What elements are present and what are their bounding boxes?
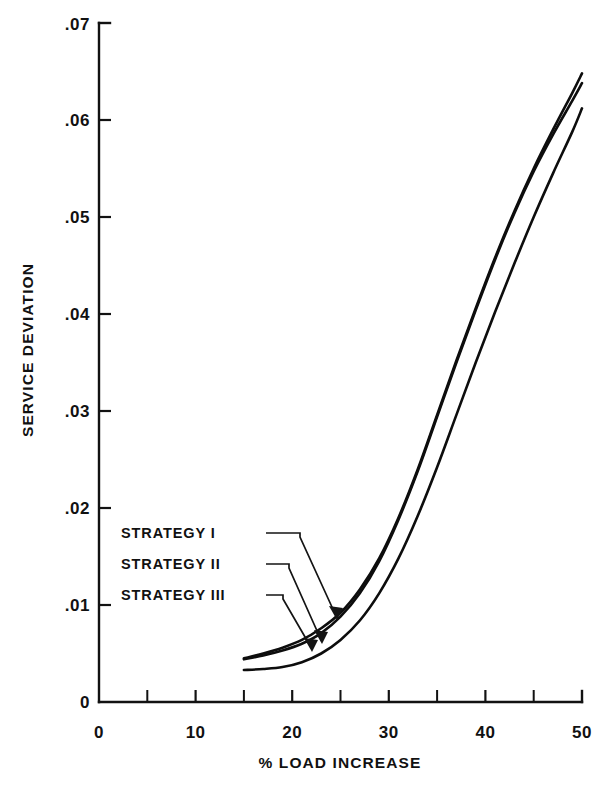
y-tick-label-0.01: .01 bbox=[65, 596, 90, 615]
curve-strategy-i bbox=[244, 73, 582, 658]
y-axis-title: SERVICE DEVIATION bbox=[19, 263, 36, 437]
leader-line-strategy-i bbox=[266, 533, 337, 618]
x-axis-title: % LOAD INCREASE bbox=[259, 754, 422, 771]
y-axis-tick-labels: 0 .01 .02 .03 .04 .05 .06 .07 bbox=[65, 15, 90, 712]
legend-item-strategy-ii: STRATEGY II bbox=[121, 556, 221, 572]
x-tick-label-10: 10 bbox=[186, 723, 206, 742]
y-tick-label-0.04: .04 bbox=[65, 305, 90, 324]
leader-lines-group bbox=[266, 533, 343, 652]
x-axis-tick-labels: 0 10 20 30 40 50 bbox=[94, 723, 592, 742]
x-tick-label-50: 50 bbox=[572, 723, 592, 742]
x-axis-ticks bbox=[147, 690, 533, 702]
legend-group: STRATEGY I STRATEGY II STRATEGY III bbox=[121, 525, 226, 603]
y-tick-label-0: 0 bbox=[80, 693, 90, 712]
curve-strategy-iii bbox=[244, 108, 582, 670]
curve-strategy-ii bbox=[244, 83, 582, 659]
y-axis-ticks bbox=[99, 120, 111, 605]
legend-item-strategy-iii: STRATEGY III bbox=[121, 587, 226, 603]
leader-line-strategy-ii bbox=[266, 564, 322, 642]
y-tick-label-0.07: .07 bbox=[65, 15, 90, 34]
y-tick-label-0.02: .02 bbox=[65, 499, 90, 518]
y-tick-label-0.03: .03 bbox=[65, 402, 90, 421]
x-tick-label-40: 40 bbox=[475, 723, 495, 742]
arrowhead-strategy-iii bbox=[304, 638, 318, 652]
x-tick-label-0: 0 bbox=[94, 723, 104, 742]
y-tick-label-0.06: .06 bbox=[65, 111, 90, 130]
figure-container: 0 .01 .02 .03 .04 .05 .06 .07 0 10 20 3 bbox=[0, 0, 609, 786]
y-tick-label-0.05: .05 bbox=[65, 208, 90, 227]
service-deviation-line-chart: 0 .01 .02 .03 .04 .05 .06 .07 0 10 20 3 bbox=[0, 0, 609, 786]
legend-item-strategy-i: STRATEGY I bbox=[121, 525, 216, 541]
x-tick-label-30: 30 bbox=[379, 723, 399, 742]
x-tick-label-20: 20 bbox=[282, 723, 302, 742]
